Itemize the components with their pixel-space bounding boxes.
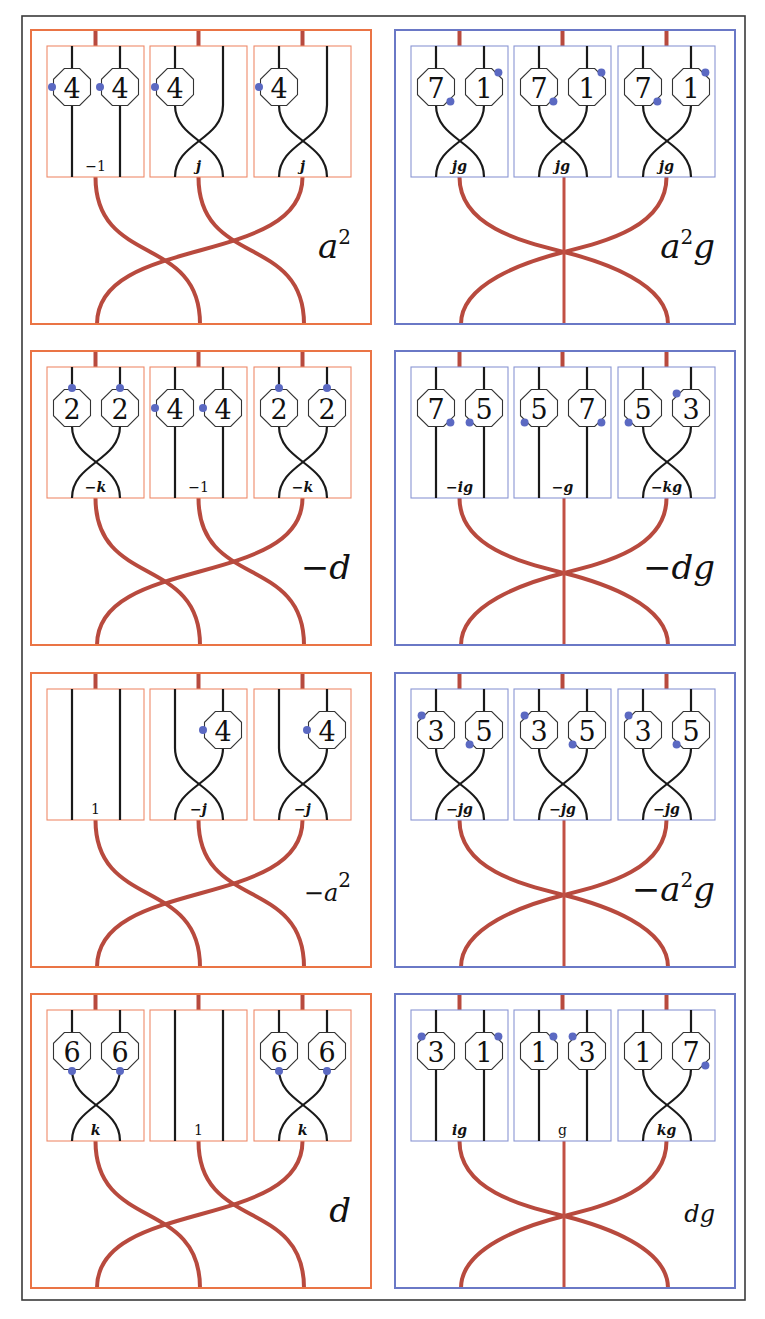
- box-label: ig: [452, 1122, 467, 1138]
- dot-marker-icon: [151, 83, 159, 91]
- octagon-number: 5: [530, 394, 547, 425]
- octagon-number: 5: [682, 716, 699, 747]
- box-label: −g: [552, 479, 574, 495]
- inner-box: 75−ig: [411, 367, 508, 498]
- lower-strands: [460, 1141, 669, 1288]
- octagon-number: 1: [530, 1037, 547, 1068]
- inner-box: 44−1: [47, 46, 144, 177]
- lower-strands: [96, 177, 305, 324]
- octagon-node: 5: [569, 712, 606, 749]
- inner-box: 53−kg: [618, 367, 715, 498]
- panel-3-right: 35−jg35−jg35−jg−a2g: [395, 673, 735, 967]
- box-label: jg: [449, 158, 467, 174]
- box-label: kg: [657, 1122, 677, 1138]
- inner-box: 31ig: [411, 1010, 508, 1141]
- box-label: jg: [656, 158, 674, 174]
- panel-4-right: 31ig13g17kgdg: [395, 994, 735, 1288]
- octagon-number: 4: [166, 73, 183, 104]
- dot-marker-icon: [549, 97, 557, 105]
- octagon-node: 1: [625, 1033, 662, 1070]
- octagon-number: 1: [634, 1037, 651, 1068]
- octagon-number: 3: [634, 716, 651, 747]
- inner-box: 4j: [254, 46, 351, 177]
- panel-label: −dg: [643, 547, 715, 587]
- box-label: −k: [85, 479, 107, 495]
- dot-marker-icon: [48, 83, 56, 91]
- dot-marker-icon: [569, 1033, 577, 1041]
- red-strand: [199, 498, 305, 645]
- dot-marker-icon: [466, 418, 474, 426]
- inner-box: 1: [150, 1010, 247, 1141]
- dot-marker-icon: [673, 740, 681, 748]
- inner-box: 4−j: [254, 689, 351, 820]
- octagon-node: 1: [521, 1033, 558, 1070]
- dot-marker-icon: [625, 418, 633, 426]
- dot-marker-icon: [151, 404, 159, 412]
- octagon-number: 6: [318, 1037, 335, 1068]
- inner-box: 35−jg: [411, 689, 508, 820]
- octagon-number: 3: [427, 1037, 444, 1068]
- octagon-node: 3: [418, 1033, 455, 1070]
- octagon-number: 4: [63, 73, 80, 104]
- dot-marker-icon: [323, 1067, 331, 1075]
- dot-marker-icon: [521, 418, 529, 426]
- dot-marker-icon: [446, 418, 454, 426]
- inner-box: 35−jg: [514, 689, 611, 820]
- octagon-number: 7: [530, 73, 547, 104]
- box-label: −jg: [653, 801, 680, 817]
- lower-strands: [96, 1141, 305, 1288]
- panel-label: a2: [318, 225, 351, 266]
- box-label: jg: [552, 158, 570, 174]
- dot-marker-icon: [625, 712, 633, 720]
- octagon-node: 1: [466, 1033, 503, 1070]
- octagon-number: 3: [427, 716, 444, 747]
- box-label: g: [558, 1122, 567, 1138]
- dot-marker-icon: [494, 69, 502, 77]
- dot-marker-icon: [199, 404, 207, 412]
- box-label: 1: [194, 1122, 203, 1138]
- dot-marker-icon: [597, 69, 605, 77]
- octagon-number: 4: [111, 73, 128, 104]
- dot-marker-icon: [68, 384, 76, 392]
- octagon-node: 7: [625, 69, 662, 106]
- lower-strands: [96, 820, 305, 967]
- box-label: −j: [294, 801, 311, 817]
- octagon-number: 3: [530, 716, 547, 747]
- red-strand: [96, 820, 201, 967]
- dot-marker-icon: [673, 390, 681, 398]
- octagon-number: 1: [682, 73, 699, 104]
- octagon-node: 1: [569, 69, 606, 106]
- octagon-node: 3: [673, 390, 710, 427]
- octagon-node: 5: [466, 390, 503, 427]
- inner-box: 22−k: [47, 367, 144, 498]
- octagon-number: 5: [634, 394, 651, 425]
- octagon-number: 6: [270, 1037, 287, 1068]
- octagon-number: 7: [578, 394, 595, 425]
- octagon-number: 4: [214, 716, 231, 747]
- dot-marker-icon: [116, 1067, 124, 1075]
- octagon-node: 7: [418, 390, 455, 427]
- octagon-number: 2: [63, 394, 80, 425]
- box-label: k: [91, 1122, 101, 1138]
- octagon-number: 6: [63, 1037, 80, 1068]
- box-label: 1: [91, 801, 100, 817]
- box-label: −kg: [651, 479, 682, 495]
- inner-box: 66k: [254, 1010, 351, 1141]
- inner-box: 17kg: [618, 1010, 715, 1141]
- octagon-node: 5: [466, 712, 503, 749]
- dot-marker-icon: [323, 384, 331, 392]
- panel-label: a2g: [660, 225, 715, 266]
- dot-marker-icon: [701, 1061, 709, 1069]
- octagon-number: 1: [578, 73, 595, 104]
- inner-box: 35−jg: [618, 689, 715, 820]
- box-label: −jg: [446, 801, 473, 817]
- octagon-node: 7: [569, 390, 606, 427]
- octagon-node: 5: [625, 390, 662, 427]
- octagon-number: 6: [111, 1037, 128, 1068]
- dot-marker-icon: [653, 97, 661, 105]
- dot-marker-icon: [521, 712, 529, 720]
- box-label: −1: [85, 158, 106, 174]
- octagon-node: 1: [466, 69, 503, 106]
- dot-marker-icon: [303, 726, 311, 734]
- panel-2-left: 22−k44−122−k−d: [31, 351, 371, 645]
